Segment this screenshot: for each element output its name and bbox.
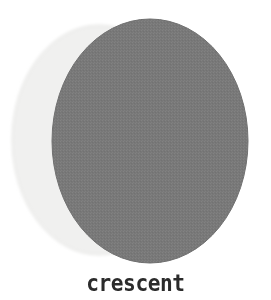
phase-label: crescent: [86, 272, 184, 295]
moon-phase-figure: crescent: [0, 0, 271, 300]
shadow-disk: [52, 19, 248, 263]
caption: crescent: [0, 266, 271, 300]
moon-illustration: [0, 0, 271, 268]
moon-phase-graphic: [0, 0, 271, 268]
